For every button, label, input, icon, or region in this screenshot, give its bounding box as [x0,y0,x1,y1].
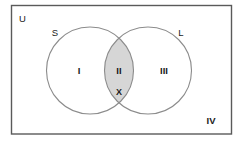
venn-diagram-canvas: U S L I II III IV X [0,0,242,141]
region-label-iii: III [160,65,168,76]
region-label-i: I [78,65,81,76]
element-mark-x: X [116,87,122,97]
region-label-ii: II [116,65,121,76]
venn-diagram-figure: U S L I II III IV X [0,0,242,141]
region-label-iv: IV [207,115,217,126]
set-s-label: S [52,27,58,38]
set-l-label: L [178,27,183,38]
universe-label: U [19,13,26,24]
